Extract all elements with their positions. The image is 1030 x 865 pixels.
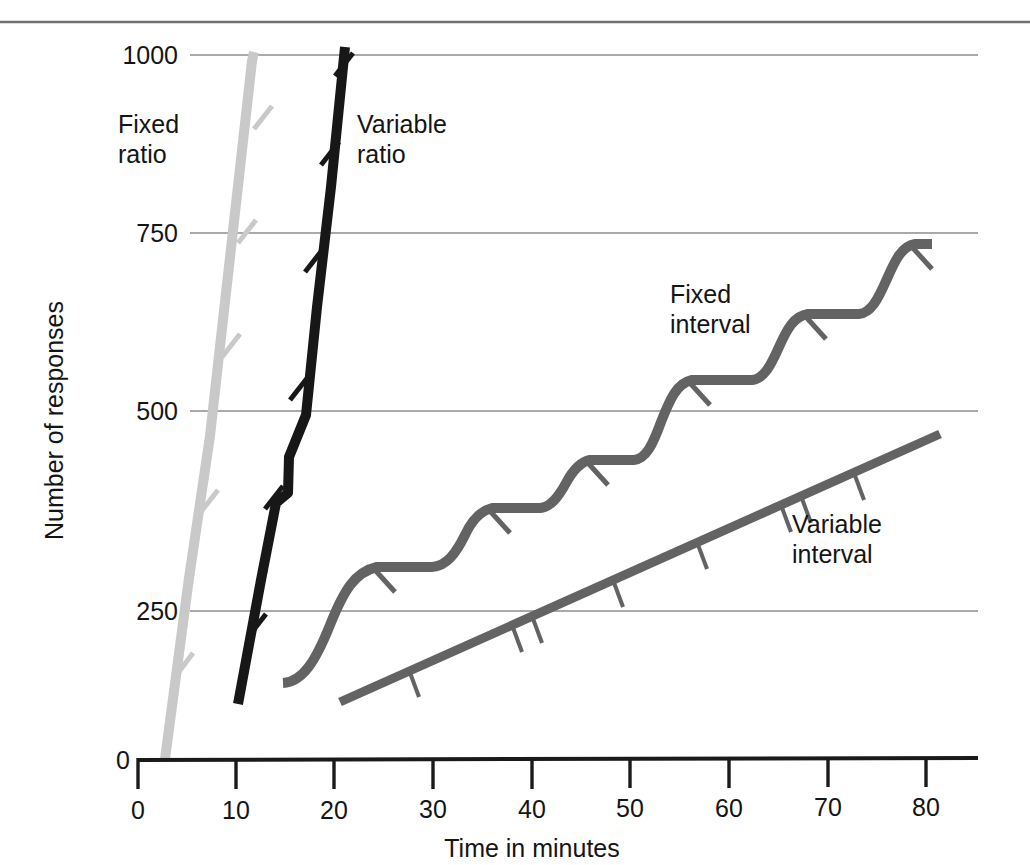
y-tick-label-1000: 1000	[122, 41, 178, 69]
y-axis-title: Number of responses	[40, 301, 68, 540]
operant-conditioning-response-chart: 1000 750 500 250 0 Number of responses	[0, 0, 1030, 865]
x-tick-label-70: 70	[814, 793, 842, 821]
series-annotation-fixed-ratio: Fixed ratio	[118, 110, 179, 168]
variable-interval-reinforcement-marks	[409, 473, 864, 697]
fixed-interval-label-line2: interval	[670, 310, 751, 338]
variable-interval-label-line2: interval	[792, 540, 873, 568]
x-tick-label-60: 60	[715, 794, 743, 822]
chart-page: 1000 750 500 250 0 Number of responses	[0, 0, 1030, 865]
variable-interval-label-line1: Variable	[792, 510, 882, 538]
x-axis-title: Time in minutes	[444, 834, 620, 862]
variable-ratio-label-line2: ratio	[357, 140, 406, 168]
x-tick-label-30: 30	[419, 795, 447, 823]
x-axis-line	[137, 758, 978, 760]
variable-ratio-line	[238, 47, 345, 704]
fixed-ratio-line	[165, 52, 254, 759]
x-tick-label-80: 80	[912, 793, 940, 821]
x-tick-label-10: 10	[222, 796, 250, 824]
y-tick-label-750: 750	[136, 219, 178, 247]
y-tick-label-0: 0	[116, 746, 130, 774]
fixed-ratio-label-line1: Fixed	[118, 110, 179, 138]
x-tick-label-40: 40	[518, 795, 546, 823]
fixed-ratio-label-line2: ratio	[118, 140, 167, 168]
series-annotation-fixed-interval: Fixed interval	[670, 280, 751, 338]
x-tick-labels: 0 10 20 30 40 50 60 70 80	[131, 793, 940, 824]
series-annotation-variable-ratio: Variable ratio	[357, 110, 447, 168]
series-fixed-interval	[283, 244, 932, 683]
x-tick-label-50: 50	[616, 794, 644, 822]
y-tick-label-250: 250	[136, 597, 178, 625]
series-annotation-variable-interval: Variable interval	[792, 510, 882, 568]
y-tick-label-500: 500	[136, 397, 178, 425]
variable-ratio-label-line1: Variable	[357, 110, 447, 138]
fixed-interval-line	[283, 244, 932, 683]
fixed-interval-label-line1: Fixed	[670, 280, 731, 308]
x-axis	[137, 758, 978, 789]
x-tick-label-0: 0	[131, 796, 145, 824]
x-tick-label-20: 20	[320, 796, 348, 824]
series-fixed-ratio	[165, 52, 272, 759]
